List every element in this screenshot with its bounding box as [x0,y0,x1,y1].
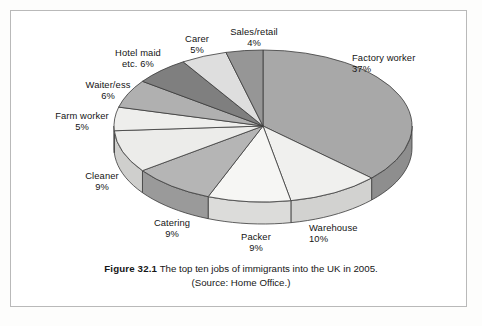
slice-label-percent: 5% [44,121,120,132]
slice-label-hotel-maid: Hotel maid etc. 6% [103,47,173,70]
slice-label-name: Farm worker [44,110,120,121]
slice-label-waiter-ess: Waiter/ess 6% [74,79,142,102]
slice-label-percent: 9% [141,228,203,239]
slice-label-name: Cleaner [75,170,129,181]
figure-container: Factory worker 37% Warehouse 10% Packer … [0,0,482,326]
slice-label-percent: 6% [74,90,142,101]
slice-label-percent: 9% [229,242,283,253]
slice-label-name: Packer [229,231,283,242]
caption-source: (Source: Home Office.) [28,276,454,290]
slice-label-warehouse: Warehouse 10% [309,222,358,245]
pie-slice-group [114,50,412,224]
slice-label-name: Sales/retail [223,26,285,37]
slice-label-name: Carer [175,33,219,44]
caption-figure-number: Figure 32.1 [104,263,157,274]
slice-label-percent: 10% [309,233,358,244]
slice-label-factory-worker: Factory worker 37% [352,52,415,75]
slice-label-name: Hotel maid [103,47,173,58]
slice-label-carer: Carer 5% [175,33,219,56]
slice-label-percent: 37% [352,63,415,74]
slice-label-name: Warehouse [309,222,358,233]
slice-label-name: Waiter/ess [74,79,142,90]
slice-label-name: Factory worker [352,52,415,63]
slice-label-percent: 9% [75,181,129,192]
slice-label-farm-worker: Farm worker 5% [44,110,120,133]
caption-text: The top ten jobs of immigrants into the … [160,263,378,274]
slice-label-name: Catering [141,217,203,228]
slice-label-percent: 4% [223,37,285,48]
slice-label-percent: 5% [175,44,219,55]
slice-label-sales-retail: Sales/retail 4% [223,26,285,49]
slice-label-catering: Catering 9% [141,217,203,240]
slice-label-packer: Packer 9% [229,231,283,254]
slice-label-percent: etc. 6% [103,58,173,69]
slice-label-cleaner: Cleaner 9% [75,170,129,193]
figure-caption: Figure 32.1 The top ten jobs of immigran… [28,262,454,290]
